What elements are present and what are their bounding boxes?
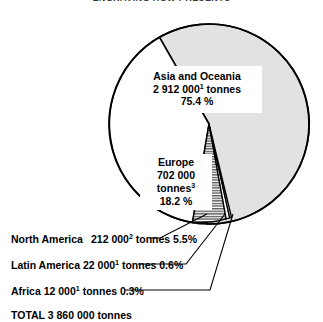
legend-latin-america-percent: 0.6% <box>159 259 183 271</box>
legend-row-latin-america: Latin America 22 0001 tonnes 0.6% <box>11 259 183 271</box>
legend-north-america-percent: 5.5% <box>173 233 197 245</box>
label-europe-name: Europe <box>142 156 210 169</box>
label-europe-value: 702 000 <box>142 169 210 182</box>
total-row: TOTAL 3 860 000 tonnes <box>11 309 132 321</box>
legend-africa-unit: tonnes <box>83 285 117 297</box>
label-europe-percent: 18.2 % <box>142 195 210 208</box>
total-unit: tonnes <box>97 309 131 321</box>
label-asia-and-oceania: Asia and Oceania 2 912 0001 tonnes 75.4 … <box>132 66 262 113</box>
label-asia-value-row: 2 912 0001 tonnes <box>135 83 259 96</box>
legend-row-north-america: North America212 0002 tonnes 5.5% <box>11 233 197 245</box>
legend-latin-america-unit: tonnes <box>122 259 156 271</box>
legend-africa-footnote: 1 <box>76 285 80 292</box>
legend-north-america-value: 212 000 <box>91 233 129 245</box>
legend-latin-america-name: Latin America <box>11 259 80 271</box>
legend-north-america-unit: tonnes <box>136 233 170 245</box>
label-europe-unit-row: tonnes3 <box>142 182 210 195</box>
total-label: TOTAL <box>11 309 45 321</box>
total-value: 3 860 000 <box>48 309 95 321</box>
label-asia-percent: 75.4 % <box>135 95 259 108</box>
label-europe-unit: tonnes <box>157 182 191 194</box>
legend-north-america-footnote: 2 <box>129 233 133 240</box>
label-europe-footnote: 3 <box>191 182 195 189</box>
legend-latin-america-value: 22 000 <box>83 259 115 271</box>
label-asia-unit: tonnes <box>207 83 241 95</box>
legend-latin-america-footnote: 1 <box>115 259 119 266</box>
legend-north-america-name: North America <box>11 233 83 245</box>
legend-africa-percent: 0.3% <box>120 285 144 297</box>
legend-row-africa: Africa 12 0001 tonnes 0.3% <box>11 285 144 297</box>
label-europe: Europe 702 000 tonnes3 18.2 % <box>140 154 212 210</box>
legend-africa-name: Africa <box>11 285 41 297</box>
label-asia-name: Asia and Oceania <box>135 70 259 83</box>
label-asia-value: 2 912 000 <box>153 83 200 95</box>
legend-africa-value: 12 000 <box>44 285 76 297</box>
chart-figure: ENGRAVING HOW PRESENTS Asia and Oceania … <box>0 0 323 322</box>
label-asia-footnote: 1 <box>200 82 204 89</box>
